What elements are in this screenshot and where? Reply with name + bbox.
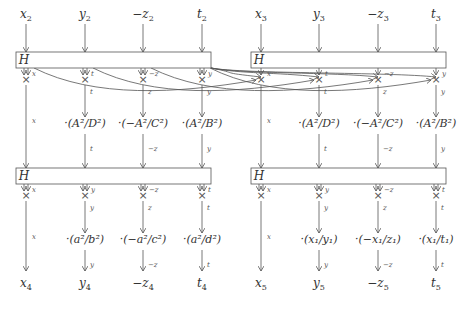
h-box-label: H xyxy=(18,169,30,183)
input-x2: x2 xyxy=(20,7,32,23)
edge-label: t xyxy=(208,186,211,194)
edge-label: t xyxy=(441,261,444,269)
edge-label: x xyxy=(32,233,36,241)
input-z2: −z2 xyxy=(132,7,153,23)
h-box-label: H xyxy=(18,53,30,67)
output-t4: t4 xyxy=(197,276,207,292)
scale-factor: ·(a²/b²) xyxy=(66,233,104,246)
edge-label: t xyxy=(325,70,328,78)
edge-label: t xyxy=(207,204,210,212)
multiply-cross: × xyxy=(80,73,89,86)
multiply-cross: × xyxy=(373,73,382,86)
edge-label: −z xyxy=(383,261,393,269)
edge-label: z xyxy=(147,204,152,212)
input-y2: y2 xyxy=(78,7,91,23)
multiply-cross: × xyxy=(314,189,323,202)
scale-factor: ·(A²/B²) xyxy=(416,117,457,130)
h-box-1 xyxy=(16,52,211,68)
multiply-cross: × xyxy=(138,189,147,202)
edge-label: y xyxy=(323,261,329,269)
output-y4: y4 xyxy=(78,276,91,292)
h-box-4 xyxy=(251,168,446,184)
h-box-2 xyxy=(251,52,446,68)
edge-label: y xyxy=(440,145,446,153)
scale-factor: ·(−A²/C²) xyxy=(353,117,403,130)
edge-label: x xyxy=(267,117,271,125)
multiply-cross: × xyxy=(21,189,30,202)
output-t5: t5 xyxy=(431,276,441,292)
scale-factor: ·(A²/D²) xyxy=(298,117,339,130)
h-box-label: H xyxy=(253,169,265,183)
multiply-cross: × xyxy=(256,189,265,202)
edge-label: t xyxy=(207,261,210,269)
edge-label: y xyxy=(89,204,95,212)
edge-label: t xyxy=(91,70,94,78)
edge-label: y xyxy=(206,145,212,153)
edge-label: x xyxy=(267,70,271,78)
h-box-label: H xyxy=(253,53,265,67)
multiply-cross: × xyxy=(314,73,323,86)
edge-label: y xyxy=(440,88,446,96)
edge-label: −z xyxy=(148,145,158,153)
scale-factor: ·(−x₁/z₁) xyxy=(355,233,401,246)
output-x5: x5 xyxy=(255,276,267,292)
edge-label: y xyxy=(207,70,213,78)
scale-factor: ·(−A²/C²) xyxy=(118,117,168,130)
output-z4: −z4 xyxy=(132,276,153,292)
multiply-cross: × xyxy=(80,189,89,202)
edge-label: t xyxy=(90,88,93,96)
edge-label: −z xyxy=(384,70,394,78)
scale-factor: ·(A²/D²) xyxy=(64,117,105,130)
multiply-cross: × xyxy=(21,73,30,86)
scale-factor: ·(x₁/t₁) xyxy=(418,233,453,246)
hadamard-multiplication-diagram: HHHHx2x×xx×xx4y2t×t·(A²/D²)ty×y·(a²/b²)y… xyxy=(0,0,474,313)
edge-label: y xyxy=(324,186,330,194)
edge-label: t xyxy=(90,145,93,153)
edge-label: −z xyxy=(148,261,158,269)
edge-label: x xyxy=(32,186,36,194)
multiply-cross: × xyxy=(138,73,147,86)
edge-label: t xyxy=(324,88,327,96)
edge-label: t xyxy=(441,204,444,212)
labels: HHHHx2x×xx×xx4y2t×t·(A²/D²)ty×y·(a²/b²)y… xyxy=(18,7,457,292)
edge-label: y xyxy=(441,70,447,78)
multiply-cross: × xyxy=(431,189,440,202)
scale-factor: ·(a²/d²) xyxy=(183,233,221,246)
edge-label: x xyxy=(32,117,36,125)
edge-label: y xyxy=(206,88,212,96)
edge-label: z xyxy=(382,204,387,212)
output-y5: y5 xyxy=(312,276,325,292)
edge-label: −z xyxy=(149,70,159,78)
multiply-cross: × xyxy=(431,73,440,86)
edge-label: y xyxy=(89,261,95,269)
scale-factor: ·(x₁/y₁) xyxy=(300,233,337,246)
edge-label: y xyxy=(323,204,329,212)
edge-label: t xyxy=(324,145,327,153)
edge-label: x xyxy=(267,233,271,241)
edge-label: z xyxy=(147,88,152,96)
scale-factor: ·(−a²/c²) xyxy=(120,233,167,246)
output-x4: x4 xyxy=(20,276,32,292)
input-z3: −z3 xyxy=(367,7,388,23)
edge-label: −z xyxy=(384,186,394,194)
h-box-3 xyxy=(16,168,211,184)
input-y3: y3 xyxy=(312,7,325,23)
edge-label: x xyxy=(267,186,271,194)
edge-label: y xyxy=(90,186,96,194)
multiply-cross: × xyxy=(256,73,265,86)
multiply-cross: × xyxy=(373,189,382,202)
edge-label: z xyxy=(382,88,387,96)
multiply-cross: × xyxy=(197,73,206,86)
multiply-cross: × xyxy=(197,189,206,202)
scale-factor: ·(A²/B²) xyxy=(182,117,223,130)
input-t2: t2 xyxy=(197,7,207,23)
edge-label: −z xyxy=(149,186,159,194)
input-x3: x3 xyxy=(255,7,267,23)
edge-label: t xyxy=(442,186,445,194)
edge-label: −z xyxy=(383,145,393,153)
input-t3: t3 xyxy=(431,7,441,23)
edge-label: x xyxy=(32,70,36,78)
output-z5: −z5 xyxy=(367,276,388,292)
